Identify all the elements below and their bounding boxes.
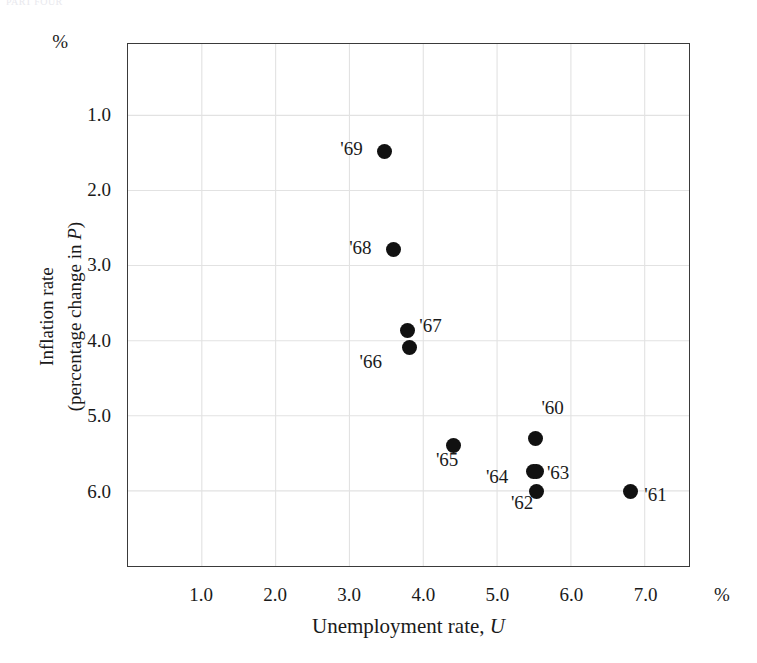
- x-tick-label: 2.0: [263, 584, 287, 606]
- x-axis-title-variable-u: U: [490, 614, 505, 638]
- data-point-label: '67: [419, 315, 441, 337]
- data-point-label: '62: [511, 492, 533, 514]
- x-tick-label: 3.0: [337, 584, 361, 606]
- data-point-marker: [377, 144, 392, 159]
- data-point-label: '63: [547, 462, 569, 484]
- data-series-layer: [128, 44, 689, 566]
- x-tick-label: 4.0: [411, 584, 435, 606]
- data-point-marker: [400, 323, 415, 338]
- x-tick-label: 6.0: [560, 584, 584, 606]
- x-axis-title: Unemployment rate, U: [127, 614, 690, 639]
- data-point-label: '66: [360, 351, 382, 373]
- y-tick-label: 5.0: [49, 405, 111, 427]
- data-point-label: '68: [349, 237, 371, 259]
- data-point-label: '60: [541, 397, 563, 419]
- plot-area: '60'61'62'63'64'65'66'67'68'69: [127, 43, 690, 567]
- x-axis-unit-label: %: [714, 584, 730, 606]
- data-point-label: '65: [436, 449, 458, 471]
- data-point-marker: [528, 431, 543, 446]
- data-point-label: '64: [486, 466, 508, 488]
- phillips-curve-figure: PART FOUR % % Inflation rate (percentage…: [0, 0, 757, 663]
- y-tick-label: 6.0: [49, 481, 111, 503]
- y-tick-label: 4.0: [49, 330, 111, 352]
- y-axis-title-line1: Inflation rate: [33, 107, 61, 527]
- y-axis-title-variable-p: P: [64, 228, 85, 240]
- y-axis-title: Inflation rate (percentage change in P): [33, 107, 88, 527]
- x-tick-label: 1.0: [189, 584, 213, 606]
- data-point-marker: [623, 484, 638, 499]
- y-tick-label: 2.0: [49, 179, 111, 201]
- y-tick-label: 3.0: [49, 254, 111, 276]
- page-running-head: PART FOUR: [6, 0, 746, 8]
- data-point-marker: [386, 242, 401, 257]
- y-axis-title-line2: (percentage change in P): [61, 107, 89, 527]
- y-axis-unit-label: %: [52, 31, 68, 53]
- y-tick-label: 1.0: [49, 104, 111, 126]
- x-tick-label: 5.0: [486, 584, 510, 606]
- y-axis-title-line2-suffix: ): [64, 222, 85, 228]
- x-tick-label: 7.0: [634, 584, 658, 606]
- data-point-label: '69: [340, 138, 362, 160]
- data-point-label: '61: [644, 484, 666, 506]
- x-axis-title-prefix: Unemployment rate,: [312, 614, 490, 638]
